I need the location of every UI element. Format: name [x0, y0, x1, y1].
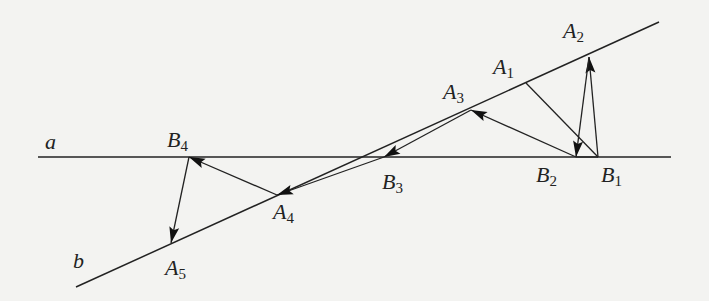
- label-letter: A: [563, 18, 576, 43]
- label-A3: A3: [443, 81, 464, 106]
- label-B2: B2: [536, 164, 557, 189]
- arrow-B4-A5: [169, 157, 189, 243]
- label-subscript: 1: [614, 173, 622, 189]
- ray-line: [384, 110, 471, 157]
- arrow-A2-B2: [573, 57, 589, 157]
- label-subscript: 1: [506, 65, 514, 81]
- arrowhead-icon: [384, 145, 400, 157]
- ray-line: [526, 83, 598, 157]
- label-letter: A: [273, 199, 286, 224]
- arrow-B3-A4: [277, 157, 384, 195]
- label-line-a: a: [45, 131, 56, 153]
- label-letter: A: [493, 54, 506, 79]
- label-letter: b: [73, 248, 84, 273]
- label-subscript: 2: [576, 29, 584, 45]
- arrowhead-icon: [471, 110, 488, 121]
- ray-line: [589, 57, 598, 157]
- label-A2: A2: [563, 20, 584, 45]
- label-line-b: b: [73, 250, 84, 272]
- label-letter: B: [536, 162, 549, 187]
- label-A5: A5: [165, 257, 186, 282]
- label-letter: B: [382, 169, 395, 194]
- arrow-A3-B3: [384, 110, 471, 157]
- label-subscript: 4: [286, 210, 294, 226]
- label-subscript: 3: [395, 180, 403, 196]
- ray-line: [189, 157, 277, 195]
- label-B3: B3: [382, 171, 403, 196]
- label-A1: A1: [493, 56, 514, 81]
- label-B1: B1: [601, 164, 622, 189]
- label-A4: A4: [273, 201, 294, 226]
- label-subscript: 2: [549, 173, 557, 189]
- ray-line: [471, 110, 576, 157]
- diagram-canvas: [0, 0, 709, 301]
- label-subscript: 3: [456, 90, 464, 106]
- label-subscript: 5: [178, 266, 186, 282]
- arrow-B2-A3: [471, 110, 576, 157]
- label-subscript: 4: [180, 138, 188, 154]
- label-letter: A: [443, 79, 456, 104]
- label-letter: A: [165, 255, 178, 280]
- arrow-A4-B4: [189, 157, 277, 195]
- label-letter: B: [167, 127, 180, 152]
- segment-A1-B1: [526, 83, 598, 157]
- ray-line: [171, 157, 189, 243]
- label-letter: B: [601, 162, 614, 187]
- ray-line: [277, 157, 384, 195]
- label-letter: a: [45, 129, 56, 154]
- reflection-diagram: abA1A2A3A4A5B1B2B3B4: [0, 0, 709, 301]
- label-B4: B4: [167, 129, 188, 154]
